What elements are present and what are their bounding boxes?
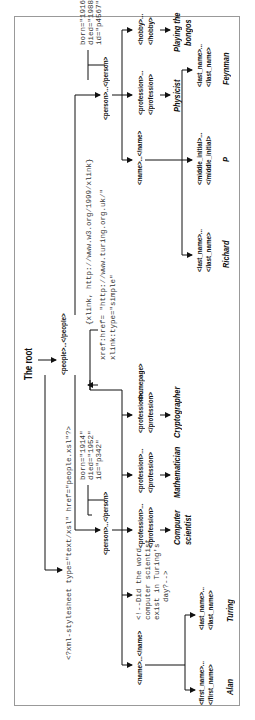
- profession-open-2: <profession>...: [137, 449, 145, 493]
- last-name-value: Turing: [226, 599, 235, 622]
- first-name-open: <first_name>...: [198, 661, 206, 705]
- given-name-open: <last_name>...: [196, 229, 204, 272]
- given-name-close: </last_name>: [205, 232, 213, 272]
- comment-line-3: exist in Turing's: [154, 543, 162, 620]
- last-name-open: <last_name>...: [198, 587, 206, 630]
- homepage-node: <homepage>: [137, 363, 145, 402]
- profession-close-3: </profession>: [147, 392, 155, 433]
- hobby-value-2: bongos: [184, 19, 193, 46]
- first-name-value: Alan: [226, 679, 235, 695]
- root-label: The root: [24, 348, 34, 380]
- profession-close-1: </profession>: [147, 507, 155, 548]
- homepage-type: xlink:type="simple": [110, 274, 118, 360]
- name-node-turing: <name>...</name>: [136, 631, 144, 685]
- person2-attr-id: id="p4567": [96, 0, 104, 45]
- family-name-value: Feynman: [222, 53, 231, 85]
- given-name-value: Richard: [222, 241, 231, 268]
- xml-tree-diagram: The root <people>...</people> <?xml-styl…: [0, 0, 255, 720]
- family-name-close: </last_name>: [205, 47, 213, 87]
- comment-line-2: computer scientist: [145, 539, 153, 620]
- profession-value-physicist: Physicist: [173, 80, 182, 112]
- connector-lines: [0, 0, 255, 720]
- middle-initial-close: </middle_initial>: [205, 136, 213, 185]
- hobby-close: </hobby>: [147, 17, 155, 45]
- profession-value-3: Cryptographer: [173, 387, 182, 438]
- family-name-open: <last_name>...: [196, 44, 204, 87]
- homepage-href: xref:href= "http://www.turing.org.uk/": [100, 189, 108, 360]
- middle-initial-value: P: [222, 157, 231, 162]
- first-name-close: </first_name>: [207, 664, 215, 705]
- people-node: <people>...</people>: [60, 313, 68, 375]
- person-node-turing: <person>...</person>: [102, 492, 110, 555]
- last-name-close: </last_name>: [207, 590, 215, 630]
- homepage-ns: {xlink, http://www.w3.org/1999/xlink}: [86, 158, 94, 325]
- profession-open-1: <profession>...: [137, 504, 145, 548]
- profession-close-2: </profession>: [147, 452, 155, 493]
- profession-close-physicist: </profession>: [147, 74, 155, 115]
- person-node-feynman: <person>...</person>: [102, 57, 110, 120]
- comment-line-4: day?-->: [163, 570, 171, 602]
- profession-open-physicist: <profession>...: [137, 71, 145, 115]
- profession-value-1a: Computer: [173, 510, 182, 545]
- name-node-feynman: <name>...</name>: [136, 131, 144, 185]
- profession-value-1b: scientist: [184, 515, 193, 545]
- person-attr-id: id="p342": [96, 439, 104, 480]
- middle-initial-open: <middle_initial>...: [196, 133, 204, 185]
- hobby-open: <hobby>...: [137, 14, 145, 45]
- stylesheet-pi-node: <?xml-stylesheet type="text/xsl" href="p…: [66, 426, 74, 660]
- profession-value-2: Mathematician: [173, 447, 182, 498]
- comment-line-1: <!--Did the word: [136, 548, 144, 620]
- hobby-value-1: Playing the: [173, 13, 182, 52]
